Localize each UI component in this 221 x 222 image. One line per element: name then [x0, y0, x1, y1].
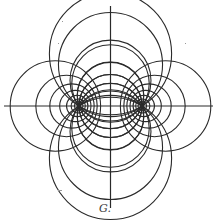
print-speck [58, 43, 59, 44]
left-pole [77, 104, 81, 108]
print-speck [62, 21, 63, 22]
print-speck [58, 190, 62, 191]
bipolar-coordinates-figure [0, 0, 221, 222]
right-pole [140, 104, 144, 108]
print-speck [185, 43, 186, 44]
figure-caption: G. [99, 202, 111, 215]
